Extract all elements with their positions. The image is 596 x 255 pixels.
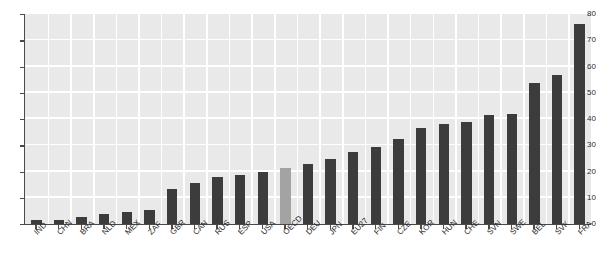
- y-tick-mark: [20, 67, 24, 68]
- plot-area: [24, 14, 591, 225]
- y-tick-mark: [20, 14, 24, 15]
- bar: [303, 164, 313, 224]
- y-tick-label: 40: [578, 115, 596, 123]
- bar-chart-figure: 01020304050607080 INDCHNBRANLDMEXZAFGBRC…: [0, 0, 596, 255]
- bar: [371, 147, 381, 224]
- y-tick-mark: [20, 224, 24, 225]
- y-tick-mark: [20, 172, 24, 173]
- y-tick-label: 30: [578, 141, 596, 149]
- bar: [529, 83, 539, 224]
- bar: [258, 172, 268, 224]
- bar: [190, 183, 200, 224]
- y-tick-label: 20: [578, 168, 596, 176]
- bar: [325, 159, 335, 224]
- bar: [507, 114, 517, 224]
- bar: [439, 124, 449, 224]
- y-tick-mark: [20, 93, 24, 94]
- y-tick-mark: [20, 40, 24, 41]
- bar: [552, 75, 562, 224]
- bar: [348, 152, 358, 224]
- y-tick-label: 50: [578, 89, 596, 97]
- bar: [416, 128, 426, 224]
- bar: [484, 115, 494, 224]
- y-tick-label: 80: [578, 10, 596, 18]
- bar-series: [25, 14, 591, 224]
- y-tick-mark: [20, 145, 24, 146]
- y-tick-label: 70: [578, 36, 596, 44]
- y-tick-mark: [20, 119, 24, 120]
- bar: [280, 168, 290, 224]
- y-tick-label: 60: [578, 63, 596, 71]
- y-tick-label: 10: [578, 194, 596, 202]
- bar: [212, 177, 222, 224]
- y-axis: [0, 14, 22, 224]
- bar: [167, 189, 177, 224]
- y-tick-mark: [20, 198, 24, 199]
- bar: [235, 175, 245, 224]
- bar: [393, 139, 403, 224]
- bar: [461, 122, 471, 224]
